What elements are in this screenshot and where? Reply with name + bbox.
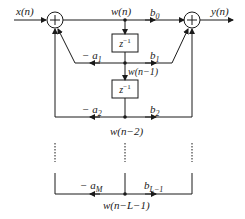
input-label: x(n) — [16, 6, 34, 17]
coeff-b2: b2 — [150, 104, 160, 118]
coeff-a2: − a2 — [82, 104, 102, 118]
coeff-a1: − a1 — [82, 50, 102, 64]
signal-flow-diagram: x(n) y(n) w(n) w(n−1) w(n−2) w(n−L−1) z−… — [0, 0, 245, 219]
state-label-wL: w(n−L−1) — [103, 200, 150, 211]
coeff-aM: − aM — [80, 180, 102, 194]
state-label-w2: w(n−2) — [110, 126, 143, 137]
state-label-w0: w(n) — [111, 6, 131, 17]
coeff-b0: b0 — [150, 7, 160, 21]
coeff-bL: bL−1 — [144, 180, 163, 194]
coeff-b1: b1 — [150, 50, 160, 64]
state-label-w1: w(n−1) — [128, 67, 158, 77]
delay-2: z−1 — [112, 84, 138, 95]
diagram-lines — [0, 0, 245, 219]
output-label: y(n) — [211, 6, 229, 17]
delay-1: z−1 — [112, 38, 138, 49]
